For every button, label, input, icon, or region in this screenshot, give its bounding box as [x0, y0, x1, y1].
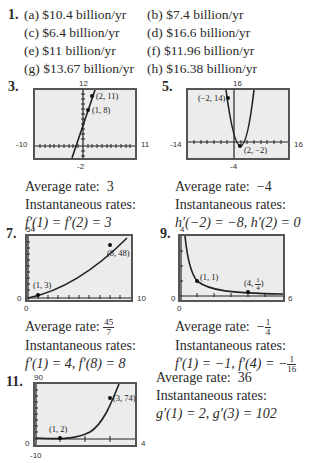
- problem-1-number: 1.: [8, 7, 19, 23]
- graph-7: (1, 3) (8, 48): [25, 234, 133, 302]
- graph-11: (1, 2) (3, 74): [33, 382, 137, 447]
- graph-9-ymin: 0: [171, 294, 175, 303]
- graph-3-ymax: 12: [79, 79, 88, 88]
- problem-9-instantaneous-label: Instantaneous rates:: [175, 337, 286, 355]
- problem-7-number: 7.: [6, 226, 17, 242]
- graph-5-ymax: 16: [233, 79, 242, 88]
- graph-3-point-2-11: (2, 11): [96, 91, 118, 101]
- graph-3-xmax: 11: [141, 140, 149, 149]
- answer-1f: (f) $11.96 billion/yr: [147, 43, 254, 59]
- graph-7-xmin: 0: [24, 304, 28, 313]
- graph-11-ymax: 90: [34, 373, 43, 382]
- problem-3-instantaneous-label: Instantaneous rates:: [25, 196, 136, 214]
- graph-9-xmax: 6: [288, 294, 292, 303]
- graph-3-plot: [35, 90, 135, 158]
- graph-11-ymin-side: 0: [25, 439, 29, 448]
- graph-9-plot: [180, 236, 283, 300]
- graph-11-point-1-2: (1, 2): [49, 424, 67, 434]
- graph-5-ymin: -4: [230, 162, 237, 171]
- graph-7-point-1-3: (1, 3): [33, 280, 51, 290]
- answer-1c: (c) $6.4 billion/yr: [24, 25, 120, 41]
- graph-7-point-8-48: (8, 48): [107, 248, 130, 258]
- graph-9-point-4-quarter: (4, 14): [244, 277, 264, 292]
- problem-5-instantaneous-value: h′(−2) = −8, h′(2) = 0: [175, 214, 301, 232]
- graph-5-xmax: 16: [294, 140, 303, 149]
- problem-11-average-rate: Average rate: 36: [156, 369, 252, 387]
- problem-7-instantaneous-value: f′(1) = 4, f′(8) = 8: [25, 355, 125, 373]
- answer-1g: (g) $13.67 billion/yr: [24, 61, 134, 77]
- graph-3-ymin: -2: [77, 162, 84, 171]
- graph-11-ymin: -10: [30, 451, 42, 460]
- problem-5-instantaneous-label: Instantaneous rates:: [175, 196, 286, 214]
- graph-3-point-1-8: (1, 8): [92, 105, 110, 115]
- problem-11-instantaneous-value: g′(1) = 2, g′(3) = 102: [156, 405, 277, 423]
- problem-11-number: 11.: [6, 374, 23, 390]
- answer-1d: (d) $16.6 billion/yr: [147, 25, 250, 41]
- graph-7-xmin-side: 0: [17, 294, 21, 303]
- graph-5-point-neg2-14: (−2, 14): [198, 93, 225, 103]
- graph-5: (−2, 14) (2, −2): [186, 88, 290, 160]
- graph-3-xmin: -10: [16, 140, 28, 149]
- graph-7-xmax: 10: [137, 294, 146, 303]
- graph-9: (1, 1) (4, 14): [178, 234, 285, 302]
- graph-9-point-1-1: (1, 1): [200, 272, 218, 282]
- answer-1a: (a) $10.4 billion/yr: [24, 7, 126, 23]
- answer-1e: (e) $11 billion/yr: [24, 43, 116, 59]
- answer-1h: (h) $16.38 billion/yr: [147, 61, 257, 77]
- graph-11-point-3-74: (3, 74): [113, 393, 136, 403]
- problem-3-average-rate: Average rate: 3: [25, 178, 114, 196]
- answer-1b: (b) $7.4 billion/yr: [147, 7, 243, 23]
- graph-3: (2, 11) (1, 8): [33, 88, 137, 160]
- graph-5-point-2-neg2: (2, −2): [244, 145, 267, 155]
- problem-7-instantaneous-label: Instantaneous rates:: [25, 337, 136, 355]
- graph-5-xmin: -14: [170, 140, 182, 149]
- problem-9-average-rate: Average rate: −14: [175, 318, 271, 337]
- graph-11-xmax: 4: [141, 439, 145, 448]
- problem-5-number: 5.: [162, 79, 173, 95]
- graph-9-ymax: 4: [180, 225, 184, 234]
- problem-5-average-rate: Average rate: −4: [175, 178, 272, 196]
- graph-7-plot: [27, 236, 131, 300]
- graph-7-ymax: 54: [26, 225, 35, 234]
- problem-11-instantaneous-label: Instantaneous rates:: [156, 387, 267, 405]
- problem-3-instantaneous-value: f′(1) = f′(2) = 3: [25, 214, 111, 232]
- problem-3-number: 3.: [8, 79, 19, 95]
- problem-9-number: 9.: [160, 226, 171, 242]
- problem-7-average-rate: Average rate: 457: [25, 318, 114, 337]
- graph-9-xmin: 0: [177, 304, 181, 313]
